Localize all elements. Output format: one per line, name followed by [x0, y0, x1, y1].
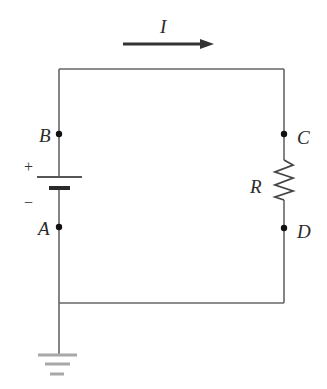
resistor-icon: [275, 160, 293, 200]
circuit-diagram: I B A C D R + −: [0, 0, 327, 389]
node-d-dot: [281, 225, 287, 231]
circuit-wires: [59, 69, 284, 355]
current-label: I: [160, 17, 166, 36]
node-b-dot: [56, 131, 62, 137]
node-c-dot: [281, 131, 287, 137]
node-c-label: C: [297, 128, 310, 147]
node-d-label: D: [297, 222, 311, 241]
ground-icon: [38, 355, 77, 374]
battery-positive-label: +: [24, 159, 33, 175]
node-a-dot: [56, 224, 62, 230]
node-b-label: B: [39, 126, 51, 145]
battery-icon: [37, 177, 82, 188]
node-a-label: A: [38, 219, 50, 238]
resistor-label: R: [250, 177, 262, 196]
current-arrow-icon: [123, 39, 214, 49]
battery-negative-label: −: [24, 195, 33, 211]
